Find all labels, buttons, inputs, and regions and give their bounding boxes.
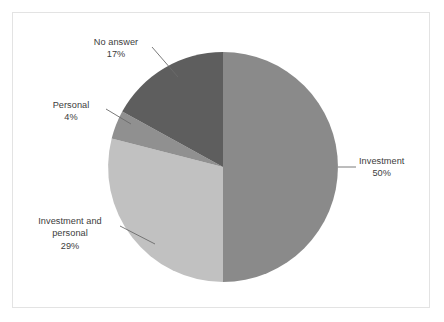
pie-slice-investment[interactable] xyxy=(223,52,338,282)
slice-label-no-answer-name: No answer xyxy=(82,36,150,48)
slice-label-personal-value: 4% xyxy=(38,111,104,123)
slice-label-investment-and-personal: Investment and personal 29% xyxy=(22,215,118,252)
pie-chart-figure: No answer 17% Personal 4% Investment and… xyxy=(0,0,444,322)
slice-label-investment: Investment 50% xyxy=(359,155,404,180)
slice-label-investment-and-personal-value: 29% xyxy=(22,240,118,252)
slice-label-personal: Personal 4% xyxy=(38,99,104,124)
slice-label-personal-name: Personal xyxy=(38,99,104,111)
slice-label-investment-and-personal-name1: Investment and xyxy=(22,215,118,227)
slice-label-investment-name: Investment xyxy=(359,155,404,167)
pie-chart-page: No answer 17% Personal 4% Investment and… xyxy=(0,0,444,322)
slice-label-no-answer-value: 17% xyxy=(82,48,150,60)
slice-label-investment-value: 50% xyxy=(359,167,404,179)
slice-label-investment-and-personal-name2: personal xyxy=(22,227,118,239)
slice-label-no-answer: No answer 17% xyxy=(82,36,150,61)
